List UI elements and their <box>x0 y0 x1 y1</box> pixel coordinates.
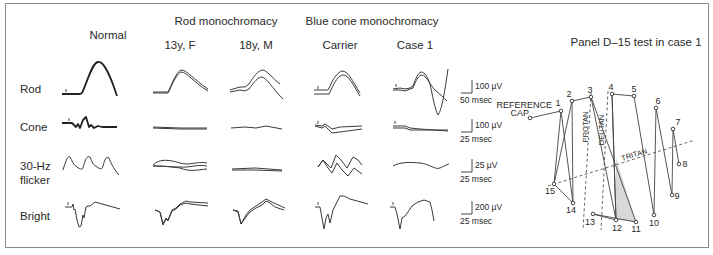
d15-cap-number: 9 <box>674 191 679 201</box>
d15-cap <box>654 106 658 110</box>
erg-trace-bc-carrier-rod-a <box>314 71 360 93</box>
d15-cap-number: 8 <box>682 159 687 169</box>
column-header: Carrier <box>322 39 357 51</box>
row-label: Cone <box>20 121 48 133</box>
d15-cap <box>670 193 674 197</box>
erg-trace-rm18-flicker-b <box>232 170 282 171</box>
confusion-axis-label: DEUTAN <box>597 115 606 145</box>
erg-trace-normal-flicker <box>63 157 119 175</box>
d15-cap <box>610 92 614 96</box>
column-header: 18y, M <box>239 39 273 51</box>
d15-cap-number: 10 <box>649 218 659 228</box>
d15-cap <box>559 109 563 113</box>
erg-trace-bc-case1-bright <box>390 200 434 229</box>
erg-trace-bc-case1-flicker <box>393 162 449 168</box>
d15-arrangement-segment <box>593 214 616 220</box>
d15-cap-number: 15 <box>545 186 555 196</box>
column-group-header: Blue cone monochromacy <box>306 15 439 27</box>
row-label: Rod <box>20 83 41 95</box>
d15-cap-number: 7 <box>675 117 680 127</box>
erg-trace-rm13-bright-b <box>155 203 208 225</box>
erg-trace-normal-bright <box>65 202 120 227</box>
column-headers: 13y, F18y, MCarrierCase 1 <box>164 39 433 51</box>
confusion-axis-label: PROTAN <box>581 112 590 143</box>
scale-amplitude-label: 200 µV <box>475 202 502 212</box>
d15-cap-number: 6 <box>655 96 660 106</box>
row-label: flicker <box>20 174 50 186</box>
d15-cap-number: 14 <box>566 205 576 215</box>
column-header: Case 1 <box>397 39 433 51</box>
d15-cap <box>589 95 593 99</box>
d15-arrangement-segment <box>554 184 573 203</box>
d15-cap <box>677 162 681 166</box>
d15-cap <box>614 218 618 222</box>
d15-panel: Panel D–15 test in case 1PROTANDEUTANTRI… <box>496 36 701 234</box>
d15-cap-number: 3 <box>587 85 592 95</box>
d15-cap <box>671 127 675 131</box>
scale-amplitude-label: 25 µV <box>475 160 498 170</box>
d15-cap <box>591 212 595 216</box>
erg-trace-normal-rod <box>62 62 117 96</box>
erg-trace-bc-carrier-rod-b <box>314 75 360 96</box>
erg-traces <box>62 62 449 229</box>
d15-panel-title: Panel D–15 test in case 1 <box>570 36 701 48</box>
scale-amplitude-label: 100 µV <box>475 120 502 130</box>
d15-cap-number: 11 <box>631 224 640 234</box>
erg-trace-rm13-rod-a <box>153 70 208 92</box>
row-label: 30-Hz <box>20 160 51 172</box>
scale-time-label: 50 msec <box>460 95 493 105</box>
erg-trace-rm18-cone <box>231 126 282 129</box>
row-label: Bright <box>20 210 51 222</box>
erg-trace-bc-carrier-bright <box>315 196 368 229</box>
erg-figure: NormalRod monochromacyBlue cone monochro… <box>0 0 713 255</box>
d15-cap-number: 13 <box>585 217 595 227</box>
column-header: 13y, F <box>164 39 195 51</box>
d15-cap-number: 2 <box>566 89 571 99</box>
d15-cap <box>652 213 656 217</box>
confusion-axis-deutan <box>601 91 608 230</box>
d15-cap <box>632 94 636 98</box>
column-group-headers: NormalRod monochromacyBlue cone monochro… <box>89 15 438 41</box>
scale-time-label: 25 msec <box>460 216 493 226</box>
d15-cap-number: 12 <box>612 223 622 233</box>
reference-cap-label: CAP <box>510 108 529 118</box>
scale-time-label: 25 msec <box>460 174 493 184</box>
d15-cap-number: 1 <box>555 98 560 108</box>
scale-time-label: 25 msec <box>460 134 493 144</box>
erg-trace-bc-carrier-flicker-a <box>318 155 362 168</box>
column-group-header: Normal <box>89 29 126 41</box>
scale-bar: 25 µV25 msec <box>460 159 498 184</box>
scale-bar: 100 µV25 msec <box>460 119 502 144</box>
erg-trace-normal-cone <box>62 117 117 128</box>
scale-amplitude-label: 100 µV <box>475 81 502 91</box>
d15-cap-number: 5 <box>631 84 636 94</box>
erg-trace-rm13-flicker-a <box>153 160 207 165</box>
column-group-header: Rod monochromacy <box>175 15 278 27</box>
row-labels: RodCone30-HzflickerBright <box>20 83 51 222</box>
d15-cap-number: 4 <box>608 82 613 92</box>
erg-trace-rm18-bright-a <box>233 199 285 224</box>
d15-cap <box>570 99 574 103</box>
scale-bar: 200 µV25 msec <box>460 201 502 226</box>
erg-trace-bc-carrier-flicker-b <box>318 160 362 176</box>
